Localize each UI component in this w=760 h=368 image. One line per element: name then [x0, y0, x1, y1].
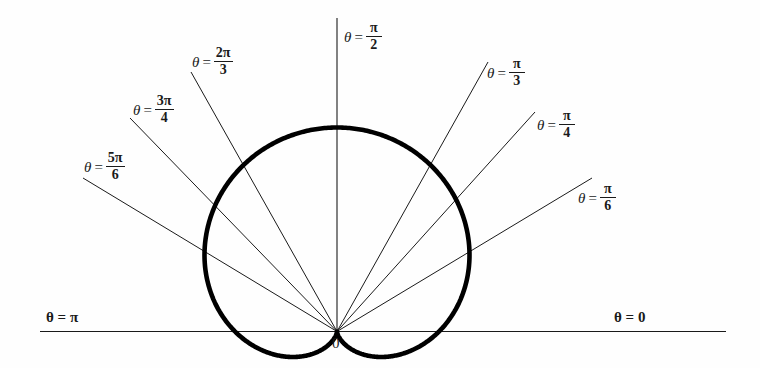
equals-symbol: = — [142, 103, 154, 118]
fraction-numerator: 2π — [214, 46, 233, 61]
fraction-numerator: π — [511, 57, 523, 72]
theta-symbol: θ — [344, 30, 353, 45]
fraction-numerator: 3π — [155, 94, 174, 109]
axis-label-theta-pi: θ = π — [46, 310, 78, 325]
fraction-numerator: π — [368, 21, 380, 36]
equals-symbol: = — [546, 118, 558, 133]
equals-symbol: = — [587, 191, 599, 206]
ray-line-pi-over-6 — [337, 178, 592, 332]
ray-label-5pi-over-6: θ = 5π 6 — [84, 152, 125, 184]
fraction-pi-over-3: π 3 — [509, 57, 525, 89]
fraction-denominator: 3 — [218, 62, 229, 77]
fraction-5pi-over-6: 5π 6 — [106, 151, 125, 183]
fraction-numerator: 5π — [106, 151, 125, 166]
fraction-pi-over-4: π 4 — [559, 109, 575, 141]
ray-label-3pi-over-4: θ = 3π 4 — [133, 95, 174, 127]
equals-symbol: = — [496, 66, 508, 81]
fraction-denominator: 3 — [511, 73, 522, 88]
fraction-numerator: π — [602, 182, 614, 197]
fraction-denominator: 4 — [561, 125, 572, 140]
fraction-denominator: 6 — [602, 198, 613, 213]
ray-label-pi-over-3: θ = π 3 — [487, 58, 525, 90]
polar-plot-canvas — [0, 0, 760, 368]
axis-label-theta-zero: θ = 0 — [614, 310, 645, 325]
equals-symbol: = — [201, 55, 213, 70]
equals-symbol: = — [93, 160, 105, 175]
theta-symbol: θ — [537, 118, 546, 133]
theta-symbol: θ — [133, 103, 142, 118]
fraction-2pi-over-3: 2π 3 — [214, 46, 233, 78]
fraction-pi-over-2: π 2 — [366, 21, 382, 53]
equals-symbol: = — [353, 30, 365, 45]
fraction-denominator: 6 — [110, 167, 121, 182]
theta-symbol: θ — [192, 55, 201, 70]
fraction-denominator: 4 — [159, 110, 170, 125]
fraction-denominator: 2 — [368, 37, 379, 52]
polar-plot-figure: θ = π 2 θ = π 3 θ = π — [0, 0, 760, 368]
ray-label-pi-over-6: θ = π 6 — [578, 183, 616, 215]
fraction-3pi-over-4: 3π 4 — [155, 94, 174, 126]
ray-label-2pi-over-3: θ = 2π 3 — [192, 47, 233, 79]
theta-symbol: θ — [578, 191, 587, 206]
ray-label-pi-over-4: θ = π 4 — [537, 110, 575, 142]
fraction-pi-over-6: π 6 — [600, 182, 616, 214]
theta-symbol: θ — [487, 66, 496, 81]
theta-symbol: θ — [84, 160, 93, 175]
ray-label-pi-over-2: θ = π 2 — [344, 22, 382, 54]
pole-origin-label: 0 — [332, 336, 340, 351]
ray-line-pi-over-4 — [337, 112, 535, 332]
fraction-numerator: π — [561, 109, 573, 124]
